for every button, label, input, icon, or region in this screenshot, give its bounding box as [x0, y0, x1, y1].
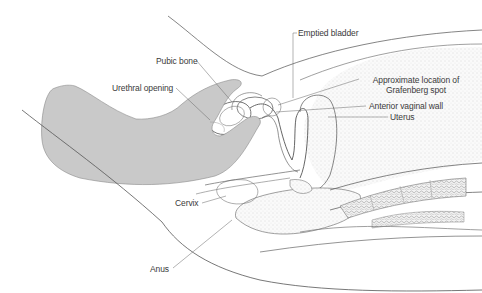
grafenberg-spot-marker: [263, 98, 281, 116]
label-anus: Anus: [150, 264, 169, 274]
coccyx: [372, 211, 464, 228]
label-grafenberg-line2: Grafenberg spot: [364, 85, 468, 95]
label-uterus: Uterus: [390, 112, 414, 122]
label-pubic-bone: Pubic bone: [156, 56, 198, 66]
label-grafenberg-line1: Approximate location of: [364, 75, 468, 85]
hand: [42, 80, 261, 185]
label-cervix: Cervix: [175, 198, 199, 208]
illustration: [0, 0, 482, 293]
label-anterior-vaginal-wall: Anterior vaginal wall: [369, 101, 443, 111]
label-urethral-opening: Urethral opening: [112, 83, 173, 93]
label-emptied-bladder: Emptied bladder: [298, 28, 358, 38]
anatomical-figure: Emptied bladder Pubic bone Urethral open…: [0, 0, 482, 293]
emptied-bladder: [237, 97, 273, 119]
label-grafenberg-spot: Approximate location of Grafenberg spot: [364, 75, 468, 95]
anterior-vaginal-wall: [250, 104, 308, 178]
